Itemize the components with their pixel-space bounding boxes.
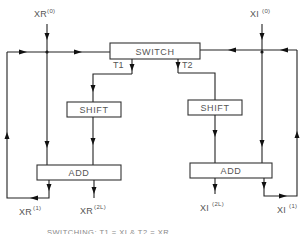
xi-1-output-label: XI(1) [277, 203, 297, 215]
switching-caption: SWITCHING: T1 = XI & T2 = XR [47, 228, 169, 234]
arrow-down-icon [91, 85, 96, 92]
arrow-right-icon [74, 50, 82, 55]
arrow-left-icon [280, 48, 288, 53]
arrow-down-icon [260, 33, 265, 40]
shift-left-to-add-line [91, 117, 96, 165]
arrow-down-icon [47, 184, 52, 191]
arrow-down-icon [262, 182, 267, 189]
shift-right-label: SHIFT [201, 103, 230, 113]
butterfly-switch-diagram: XR(0) XI(0) SWITCH T1 T2 [0, 0, 303, 234]
add-left-label: ADD [69, 168, 90, 178]
arrow-right-icon [19, 50, 27, 55]
arrow-down-icon [213, 130, 218, 137]
xr-to-add-line [45, 52, 50, 165]
arrow-down-icon [213, 184, 218, 191]
shift-right-block: SHIFT [188, 100, 242, 115]
add-right-label: ADD [221, 166, 242, 176]
xi-input-label: XI(0) [250, 8, 270, 19]
shift-left-label: SHIFT [80, 105, 109, 115]
arrow-down-icon [130, 64, 135, 71]
xi-2l-output-label: XI(2L) [200, 201, 224, 213]
arrow-down-icon [176, 62, 181, 69]
t2-label: T2 [182, 60, 193, 70]
t1-label: T1 [113, 60, 124, 70]
t2-branch: T2 [176, 59, 216, 100]
xr-input-line [45, 24, 50, 52]
switch-block: SWITCH [110, 43, 200, 59]
switch-label: SWITCH [135, 47, 174, 57]
arrow-left-icon [30, 196, 38, 201]
xr-1-output-label: XR(1) [19, 205, 41, 217]
arrow-right-icon [279, 194, 287, 199]
xi-input-line [260, 24, 265, 52]
arrow-down-icon [260, 140, 265, 147]
xi-to-add-line [260, 52, 265, 163]
xr-2l-output-label: XR(2L) [80, 204, 106, 216]
xi-2l-output-line [213, 178, 218, 194]
arrow-down-icon [45, 33, 50, 40]
xr-2l-output-line [92, 180, 97, 198]
right-top-bus [200, 48, 297, 53]
arrow-left-icon [228, 48, 236, 53]
shift-left-block: SHIFT [67, 102, 121, 117]
arrow-down-icon [92, 187, 97, 194]
arrow-up-icon [5, 132, 10, 139]
t1-branch: T1 [91, 59, 135, 102]
arrow-up-icon [295, 131, 300, 138]
left-top-bus [7, 50, 110, 55]
xr-input-label: XR(0) [34, 8, 55, 19]
shift-right-to-add-line [213, 115, 218, 163]
add-left-block: ADD [37, 165, 121, 180]
add-right-block: ADD [190, 163, 272, 178]
arrow-down-icon [45, 141, 50, 148]
arrow-down-icon [91, 138, 96, 145]
